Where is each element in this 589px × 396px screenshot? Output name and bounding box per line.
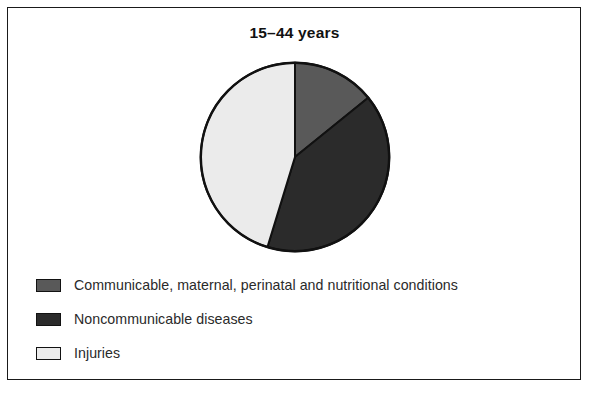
legend-label-noncommunicable: Noncommunicable diseases	[74, 311, 253, 327]
legend-swatch-communicable	[36, 279, 61, 292]
legend-swatch-injuries	[36, 347, 61, 360]
legend: Communicable, maternal, perinatal and nu…	[36, 268, 556, 370]
figure-container: 15–44 years Communicable, maternal, peri…	[0, 0, 589, 396]
pie-chart	[197, 59, 393, 255]
chart-title: 15–44 years	[0, 24, 589, 42]
legend-item-injuries: Injuries	[36, 336, 556, 370]
legend-label-injuries: Injuries	[74, 345, 120, 361]
legend-item-communicable: Communicable, maternal, perinatal and nu…	[36, 268, 556, 302]
pie-chart-svg	[197, 59, 393, 255]
legend-label-communicable: Communicable, maternal, perinatal and nu…	[74, 277, 458, 293]
legend-swatch-noncommunicable	[36, 313, 61, 326]
legend-item-noncommunicable: Noncommunicable diseases	[36, 302, 556, 336]
